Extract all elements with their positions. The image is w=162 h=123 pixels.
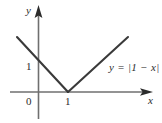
curve-left-branch [17,37,68,92]
graph-figure: y x 1 0 1 y = |1 − x| [0,0,162,123]
origin-label: 0 [26,96,32,107]
x-axis-label: x [148,95,153,106]
y-tick-label-1: 1 [26,61,32,72]
y-axis-label: y [26,5,31,16]
x-tick-label-1: 1 [65,96,71,107]
equation-annotation: y = |1 − x| [109,62,159,73]
